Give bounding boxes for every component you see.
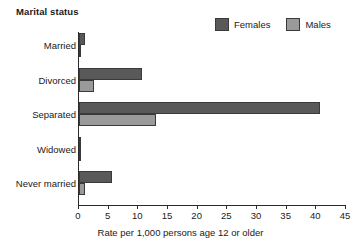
bar-group xyxy=(79,33,345,57)
x-tick-mark-30 xyxy=(256,205,257,209)
page-title: Marital status xyxy=(16,6,79,17)
bar-divorced-males xyxy=(79,80,94,92)
x-tick-label-20: 20 xyxy=(191,211,202,221)
x-tick-label-45: 45 xyxy=(340,211,351,221)
bar-never-married-females xyxy=(79,171,112,183)
legend-item-males: Males xyxy=(286,18,330,31)
bar-chart: Marital status Females Males 05101520253… xyxy=(0,0,361,252)
legend-swatch-males xyxy=(286,18,300,31)
y-axis-label-separated: Separated xyxy=(32,110,76,120)
bar-group xyxy=(79,68,345,92)
x-tick-mark-0 xyxy=(78,205,79,209)
bar-married-females xyxy=(79,33,85,45)
bar-widowed-females xyxy=(79,137,81,149)
x-tick-label-0: 0 xyxy=(75,211,80,221)
legend-item-females: Females xyxy=(215,18,270,31)
bar-separated-males xyxy=(79,114,156,126)
x-tick-label-40: 40 xyxy=(310,211,321,221)
legend-swatch-females xyxy=(215,18,229,31)
y-axis-label-married: Married xyxy=(44,41,76,51)
bar-separated-females xyxy=(79,102,320,114)
x-tick-label-15: 15 xyxy=(162,211,173,221)
x-tick-label-25: 25 xyxy=(221,211,232,221)
plot-area: 051015202530354045 xyxy=(78,32,345,205)
bar-married-males xyxy=(79,45,81,57)
x-tick-mark-15 xyxy=(167,205,168,209)
bar-divorced-females xyxy=(79,68,142,80)
bar-group xyxy=(79,102,345,126)
y-axis-label-widowed: Widowed xyxy=(37,145,76,155)
legend-label-males: Males xyxy=(305,20,330,30)
x-tick-mark-5 xyxy=(108,205,109,209)
x-tick-mark-20 xyxy=(197,205,198,209)
x-axis-line xyxy=(78,205,345,206)
x-tick-label-5: 5 xyxy=(105,211,110,221)
y-axis-label-never-married: Never married xyxy=(16,179,76,189)
x-tick-mark-10 xyxy=(137,205,138,209)
bar-widowed-males xyxy=(79,149,81,161)
x-tick-mark-45 xyxy=(345,205,346,209)
x-tick-label-30: 30 xyxy=(251,211,262,221)
x-tick-mark-25 xyxy=(226,205,227,209)
bar-never-married-males xyxy=(79,183,85,195)
bar-group xyxy=(79,137,345,161)
x-tick-mark-40 xyxy=(315,205,316,209)
legend-label-females: Females xyxy=(234,20,270,30)
x-tick-label-10: 10 xyxy=(132,211,143,221)
chart-legend: Females Males xyxy=(215,18,331,31)
y-axis-label-divorced: Divorced xyxy=(39,76,77,86)
x-axis-title: Rate per 1,000 persons age 12 or older xyxy=(0,228,361,238)
x-tick-label-35: 35 xyxy=(280,211,291,221)
bar-group xyxy=(79,171,345,195)
x-tick-mark-35 xyxy=(286,205,287,209)
